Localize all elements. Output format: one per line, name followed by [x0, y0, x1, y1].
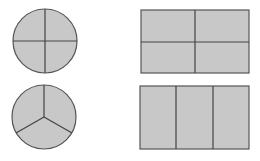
circle-divided-into-quarters	[13, 9, 77, 73]
fraction-diagram	[0, 0, 260, 161]
circle-divided-into-thirds	[12, 85, 76, 149]
rectangle-divided-into-thirds	[140, 86, 249, 149]
rectangle-divided-into-quarters	[141, 10, 249, 73]
